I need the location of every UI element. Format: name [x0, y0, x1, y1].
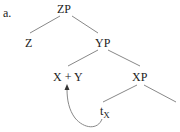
tree-branches: [0, 0, 180, 132]
edge-zp-z: [30, 16, 60, 33]
trace-subscript: X: [103, 110, 110, 120]
edge-zp-yp: [72, 16, 98, 33]
movement-arrow: [67, 89, 102, 127]
example-label: a.: [3, 7, 11, 19]
edge-xp-trace: [103, 85, 137, 102]
arrowhead-icon: [65, 84, 70, 90]
node-yp: YP: [95, 37, 110, 49]
node-x-plus-y: X + Y: [53, 71, 83, 83]
node-trace: tX: [100, 105, 110, 121]
edge-xp-empty: [144, 85, 176, 102]
edge-yp-xp: [108, 50, 140, 66]
edge-yp-xy: [68, 50, 98, 66]
node-z: Z: [25, 37, 32, 49]
node-xp: XP: [132, 71, 147, 83]
node-zp: ZP: [57, 3, 71, 15]
